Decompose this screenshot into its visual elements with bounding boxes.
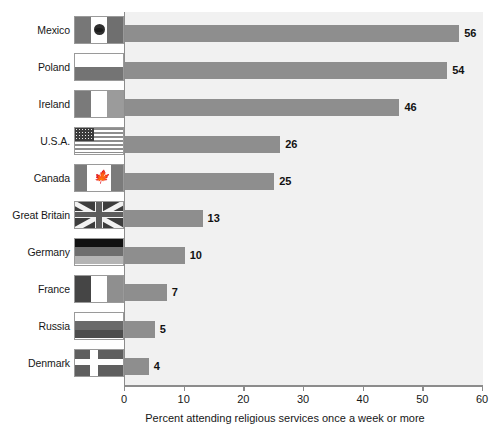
x-axis-tick (482, 385, 483, 391)
bar-value-label: 13 (208, 210, 220, 227)
bar-value-label: 46 (404, 99, 416, 116)
category-row-usa: U.S.A. (0, 122, 124, 159)
bar-value-label: 5 (160, 321, 166, 338)
category-row-canada: Canada 🍁 (0, 159, 124, 196)
x-axis-tick (303, 385, 304, 391)
x-axis-tick-label: 30 (297, 393, 309, 405)
bar-value-label: 56 (464, 25, 476, 42)
bar-russia (125, 321, 155, 338)
x-axis-tick-label: 10 (178, 393, 190, 405)
category-label: Ireland (39, 98, 74, 110)
bar-denmark (125, 358, 149, 375)
category-label: Great Britain (12, 209, 74, 221)
bar-value-label: 26 (285, 136, 297, 153)
bar-value-label: 10 (190, 247, 202, 264)
x-axis-tick-label: 0 (121, 393, 127, 405)
bar-poland (125, 62, 447, 79)
x-axis-tick (363, 385, 364, 391)
x-axis-tick-label: 50 (416, 393, 428, 405)
category-axis: Mexico Poland Ireland U.S.A. (0, 0, 124, 385)
category-row-denmark: Denmark (0, 344, 124, 381)
x-axis-tick (124, 385, 125, 391)
flag-russia-icon (74, 312, 124, 340)
category-label: Denmark (28, 357, 74, 369)
x-axis-tick (422, 385, 423, 391)
bar-usa (125, 136, 280, 153)
category-row-france: France (0, 270, 124, 307)
flag-ireland-icon (74, 90, 124, 118)
bar-value-label: 4 (154, 358, 160, 375)
bar-france (125, 284, 167, 301)
category-row-mexico: Mexico (0, 11, 124, 48)
flag-mexico-icon (74, 16, 124, 44)
category-row-russia: Russia (0, 307, 124, 344)
x-axis-title-text: Percent attending religious services onc… (73, 412, 424, 424)
x-axis-tick-label: 20 (237, 393, 249, 405)
category-label: France (38, 283, 74, 295)
flag-germany-icon (74, 238, 124, 266)
category-label: Germany (28, 246, 74, 258)
category-label: Russia (39, 320, 75, 332)
bar-ireland (125, 99, 399, 116)
bar-mexico (125, 25, 459, 42)
x-axis-tick-label: 60 (476, 393, 488, 405)
category-row-germany: Germany (0, 233, 124, 270)
flag-denmark-icon (74, 349, 124, 377)
category-label: Mexico (37, 24, 74, 36)
flag-canada-icon: 🍁 (74, 164, 124, 192)
bar-value-label: 25 (279, 173, 291, 190)
category-label: U.S.A. (40, 135, 74, 147)
x-axis-title: Percent attending religious services onc… (0, 412, 498, 424)
bar-canada (125, 173, 274, 190)
bar-value-label: 7 (172, 284, 178, 301)
category-label: Canada (34, 172, 74, 184)
category-label: Poland (38, 61, 74, 73)
x-axis-tick (243, 385, 244, 391)
category-row-ireland: Ireland (0, 85, 124, 122)
category-row-great-britain: Great Britain (0, 196, 124, 233)
bar-chart: Mexico Poland Ireland U.S.A. (0, 0, 498, 439)
flag-usa-icon (74, 127, 124, 155)
x-axis-tick (184, 385, 185, 391)
bar-great-britain (125, 210, 203, 227)
plot-area: 56 54 46 26 25 13 10 7 5 4 (124, 12, 483, 385)
bar-value-label: 54 (452, 62, 464, 79)
flag-great-britain-icon (74, 201, 124, 229)
flag-poland-icon (74, 53, 124, 81)
category-row-poland: Poland (0, 48, 124, 85)
bar-germany (125, 247, 185, 264)
x-axis-tick-label: 40 (357, 393, 369, 405)
flag-france-icon (74, 275, 124, 303)
